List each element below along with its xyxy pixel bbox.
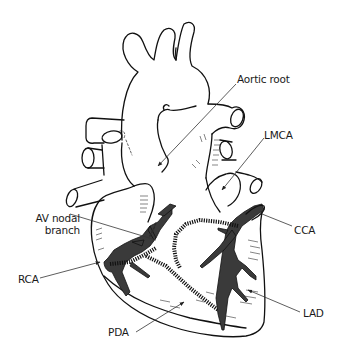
lmca-leader [222,138,264,190]
label-aortic-root: Aortic root [237,73,290,85]
label-av-nodal: AV nodal branch [20,212,80,236]
label-lmca: LMCA [264,129,293,141]
label-lad: LAD [303,307,324,319]
left-vessels [64,118,134,208]
cca-leader [262,214,292,226]
aortic-root-leader [158,84,236,166]
aortic-arch [122,22,210,140]
label-pda: PDA [108,326,129,338]
rca-leader [40,262,100,278]
label-av-nodal-line1: AV nodal [20,212,80,224]
label-av-nodal-line2: branch [20,224,80,236]
label-cca: CCA [294,224,315,236]
coronary-arteries [104,204,264,330]
av-nodal-leader [70,214,156,240]
heart-diagram [0,0,340,360]
lad-leader [248,290,300,312]
label-rca: RCA [18,273,39,285]
